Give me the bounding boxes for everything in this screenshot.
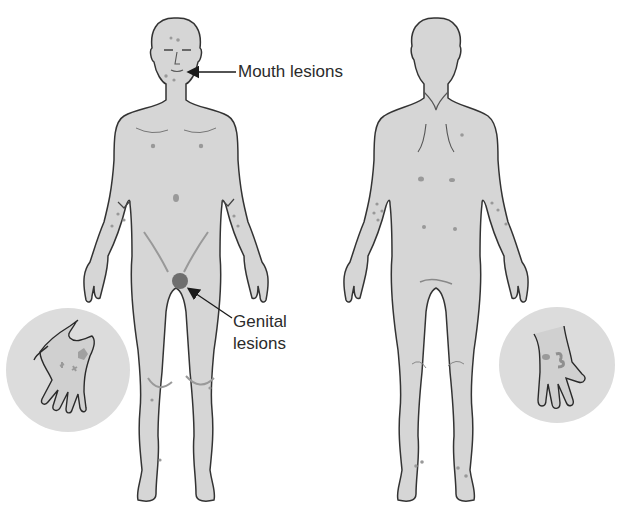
palm-inset-left: [6, 308, 130, 432]
genital-lesions-label-line1: Genital: [233, 312, 287, 332]
anterior-view: [84, 18, 268, 501]
genital-lesions-label-line2: lesions: [233, 334, 286, 354]
posterior-view: [344, 18, 528, 501]
mouth-lesions-label: Mouth lesions: [238, 62, 343, 82]
palm-inset-right: [499, 307, 615, 423]
lesion-distribution-diagram: Mouth lesions Genital lesions: [0, 0, 621, 511]
